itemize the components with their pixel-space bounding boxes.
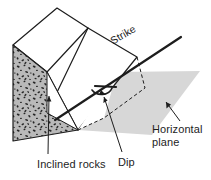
dip-direction-arrow: [95, 86, 116, 87]
strike-dip-block-diagram: Strike Horizontal plane Inclined rocks D…: [0, 0, 211, 180]
label-inclined-rocks: Inclined rocks: [37, 158, 106, 170]
label-horizontal-plane: Horizontal plane: [152, 123, 208, 149]
label-horizontal-plane-line2: plane: [152, 136, 179, 148]
label-dip: Dip: [118, 156, 135, 168]
label-horizontal-plane-line1: Horizontal: [152, 123, 203, 135]
diagram-canvas: [0, 0, 211, 180]
